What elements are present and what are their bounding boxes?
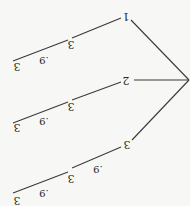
tree-diagram: 1 2 3 3 3 .9 3 3 .9 3 .9 3 .9 (0, 0, 190, 205)
node-label-b3-n1: 3 (68, 172, 75, 185)
node-label-1: 1 (123, 10, 130, 23)
edge-b1-seg1 (72, 18, 121, 38)
edge-root-to-1 (131, 20, 189, 80)
node-label-b3-n2: 3 (14, 194, 21, 206)
prob-label-b2-p2: .9 (39, 116, 49, 127)
edge-root-to-3 (132, 80, 189, 140)
edge-b2-seg1 (72, 82, 121, 100)
node-label-b2-n2: 3 (14, 121, 21, 134)
prob-label-b1-p2: .9 (39, 55, 49, 66)
prob-label-b3-p2: .9 (39, 188, 49, 199)
node-label-b1-n1: 3 (68, 38, 75, 51)
node-label-b1-n2: 3 (14, 60, 21, 73)
node-label-b2-n1: 3 (68, 100, 75, 113)
prob-label-b3-p1: .9 (93, 164, 103, 175)
node-label-3: 3 (124, 138, 131, 151)
node-label-2: 2 (123, 74, 130, 87)
